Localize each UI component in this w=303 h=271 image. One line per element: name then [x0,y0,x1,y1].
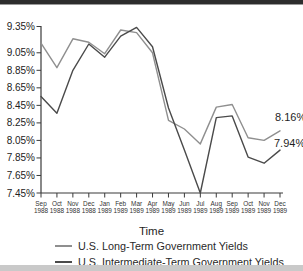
x-tick-label-year: 1989 [161,207,176,214]
x-tick-label-year: 1989 [98,207,113,214]
y-tick-label: 8.05% [7,135,35,146]
x-tick-label-year: 1989 [257,207,272,214]
x-tick-label-year: 1988 [82,207,97,214]
x-axis-title: Time [0,225,303,237]
x-tick-label-year: 1988 [34,207,49,214]
y-tick-label: 8.45% [7,100,35,111]
y-tick-label: 8.85% [7,65,35,76]
series-line-1 [41,27,280,193]
series-line-0 [41,30,280,144]
x-tick-label-month: Oct [243,200,253,207]
legend-label-long-term: U.S. Long-Term Government Yields [78,240,248,252]
x-tick-label-year: 1988 [66,207,81,214]
y-tick-label: 9.35% [7,21,35,32]
y-tick-label: 7.65% [7,170,35,181]
x-tick-label-month: Mar [131,200,143,207]
x-tick-label-year: 1989 [114,207,129,214]
x-tick-label-month: Jul [196,200,204,207]
legend-swatch-long-term [55,245,72,247]
x-tick-label-year: 1989 [193,207,208,214]
bottom-band [0,265,303,271]
x-tick-label-month: Dec [274,200,286,207]
x-tick-label-month: Dec [83,200,95,207]
y-tick-label: 7.45% [7,188,35,199]
y-tick-label: 8.25% [7,117,35,128]
x-tick-label-month: Nov [67,200,79,207]
x-tick-label-year: 1989 [209,207,224,214]
y-tick-label: 7.85% [7,152,35,163]
x-tick-label-month: Feb [115,200,126,207]
series-end-label-intermediate-term: 7.94% [274,137,303,149]
yield-chart-page: 9.35%9.05%8.85%8.65%8.45%8.25%8.05%7.85%… [0,0,303,271]
x-tick-label-year: 1989 [241,207,256,214]
x-tick-label-month: Jan [100,200,111,207]
y-tick-label: 9.05% [7,47,35,58]
yield-line-chart: 9.35%9.05%8.85%8.65%8.45%8.25%8.05%7.85%… [0,0,303,222]
y-tick-label: 8.65% [7,82,35,93]
x-tick-label-year: 1989 [129,207,144,214]
x-tick-label-year: 1989 [177,207,192,214]
x-tick-label-month: Jun [179,200,190,207]
x-tick-label-year: 1989 [225,207,240,214]
x-tick-label-year: 1988 [50,207,65,214]
legend-swatch-intermediate-term [55,261,72,263]
series-end-label-long-term: 8.16% [275,111,303,123]
x-tick-label-month: Oct [52,200,62,207]
x-tick-label-year: 1989 [273,207,288,214]
x-tick-label-year: 1989 [145,207,160,214]
legend-item-long-term: U.S. Long-Term Government Yields [55,240,248,252]
x-tick-label-month: Nov [258,200,270,207]
